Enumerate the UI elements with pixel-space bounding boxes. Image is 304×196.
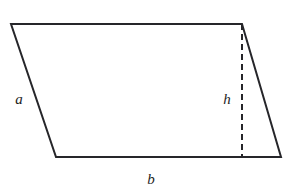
side-label-a: a (15, 91, 23, 107)
height-label-h: h (223, 91, 231, 107)
parallelogram-diagram-svg: a h b (0, 0, 304, 196)
base-label-b: b (147, 171, 155, 187)
figure-background (0, 0, 304, 196)
parallelogram-figure: a h b (0, 0, 304, 196)
